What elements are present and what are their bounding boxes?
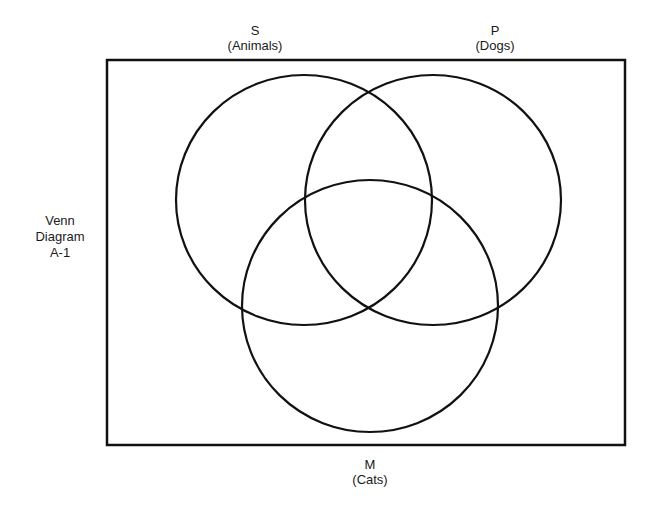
universe-frame — [107, 60, 625, 445]
venn-diagram-canvas — [0, 0, 655, 510]
title-line-1: Venn — [25, 213, 95, 229]
set-name-cats: (Cats) — [310, 472, 430, 487]
label-p-dogs: P (Dogs) — [435, 23, 555, 53]
title-line-3: A-1 — [25, 245, 95, 261]
diagram-title: Venn Diagram A-1 — [25, 213, 95, 261]
label-s-animals: S (Animals) — [195, 23, 315, 53]
set-name-animals: (Animals) — [195, 38, 315, 53]
title-line-2: Diagram — [25, 229, 95, 245]
set-letter-s: S — [195, 23, 315, 38]
set-letter-m: M — [310, 457, 430, 472]
set-letter-p: P — [435, 23, 555, 38]
set-name-dogs: (Dogs) — [435, 38, 555, 53]
label-m-cats: M (Cats) — [310, 457, 430, 487]
